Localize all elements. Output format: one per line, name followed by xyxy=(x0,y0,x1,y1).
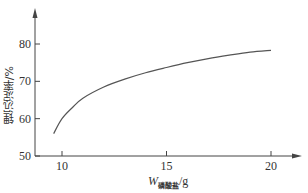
x-tick-label: 10 xyxy=(56,159,68,173)
y-axis-arrow-icon xyxy=(33,8,38,18)
y-ticks: 50607080 xyxy=(19,37,40,163)
x-tick-label: 20 xyxy=(265,159,277,173)
y-tick-label: 70 xyxy=(19,74,31,88)
x-ticks: 101520 xyxy=(56,151,277,173)
line-chart: 50607080 101520 xyxy=(0,0,308,193)
axes xyxy=(35,14,296,156)
x-axis-arrow-icon xyxy=(292,154,302,159)
y-tick-label: 50 xyxy=(19,149,31,163)
x-tick-label: 15 xyxy=(161,159,173,173)
y-tick-label: 60 xyxy=(19,112,31,126)
x-label-main: W xyxy=(148,174,158,188)
x-label-unit: /g xyxy=(179,174,188,188)
data-line xyxy=(54,50,271,133)
y-tick-label: 80 xyxy=(19,37,31,51)
x-axis-label: W磷酸盐/g xyxy=(148,174,188,190)
y-axis-label: 锂沉淀率/% xyxy=(2,66,18,124)
x-label-subscript: 磷酸盐 xyxy=(158,182,179,190)
